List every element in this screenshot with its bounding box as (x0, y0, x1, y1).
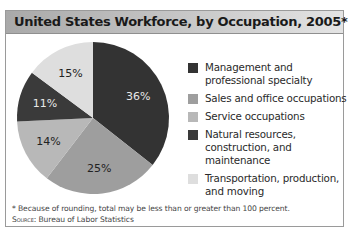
slice-label-transportation: 15% (58, 67, 82, 80)
legend: Management and professional specialty Sa… (188, 61, 348, 203)
legend-label: Sales and office occupations (205, 92, 347, 104)
slice-label-service: 14% (36, 135, 60, 148)
legend-item-management: Management and professional specialty (188, 61, 348, 87)
slice-label-management: 36% (126, 90, 150, 103)
legend-swatch-icon (188, 130, 198, 140)
legend-label: Transportation, production, and moving (205, 172, 339, 197)
legend-label: Service occupations (205, 110, 305, 122)
legend-swatch-icon (188, 174, 198, 184)
legend-swatch-icon (188, 94, 198, 104)
legend-swatch-icon (188, 112, 198, 122)
source-line: Source: Bureau of Labor Statistics (12, 214, 290, 225)
legend-item-transportation: Transportation, production, and moving (188, 172, 348, 198)
footnote: * Because of rounding, total may be less… (12, 203, 290, 225)
source-prefix: Source: (12, 215, 36, 224)
legend-item-natural-resources: Natural resources, construction, and mai… (188, 128, 348, 167)
legend-item-sales: Sales and office occupations (188, 92, 348, 105)
slice-label-sales: 25% (87, 162, 111, 175)
rounding-note: * Because of rounding, total may be less… (12, 203, 290, 214)
slice-label-natural-resources: 11% (33, 97, 57, 110)
legend-label: Management and professional specialty (205, 61, 312, 86)
source-text: Bureau of Labor Statistics (36, 215, 134, 224)
chart-frame: United States Workforce, by Occupation, … (5, 10, 344, 227)
legend-item-service: Service occupations (188, 110, 348, 123)
legend-swatch-icon (188, 63, 198, 73)
legend-label: Natural resources, construction, and mai… (205, 128, 296, 166)
